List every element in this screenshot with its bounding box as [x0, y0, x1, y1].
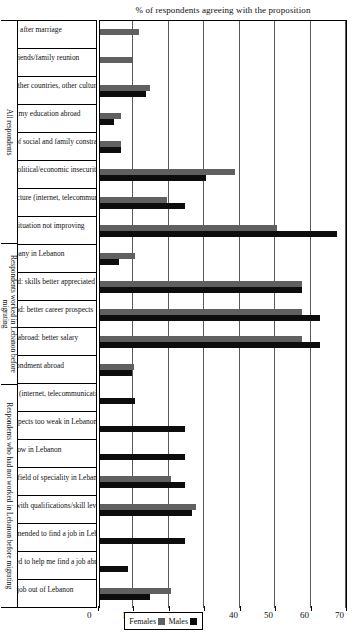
- bar-group: [100, 524, 346, 552]
- category-label-text: Could not be helped or recommended to fi…: [17, 530, 97, 538]
- y-tick-value: 60: [300, 610, 326, 620]
- bar-group: [100, 49, 346, 77]
- category-label: Found a better job abroad: skills better…: [17, 273, 97, 301]
- category-label: Bad quality of infrastructure (internet,…: [17, 384, 97, 412]
- bar-group: [100, 580, 346, 608]
- group-label-text: Respondents who had not worked in Lebano…: [5, 400, 13, 591]
- category-label-text: Wanted to continue my education abroad: [17, 110, 81, 118]
- bar-group: [100, 356, 346, 384]
- category-label: Job offers not compatible with qualifica…: [17, 496, 97, 524]
- legend-swatch-males: [190, 618, 197, 625]
- bar-females: [100, 29, 139, 35]
- category-label: Career advancement prospects too weak in…: [17, 412, 97, 440]
- category-label: Directly found a job out of Lebanon: [17, 580, 97, 608]
- category-label-text: Left Lebanon as a rejection of social an…: [17, 138, 97, 146]
- group-label: Respondents worked in Lebanon before mig…: [1, 244, 17, 384]
- bar-group: [100, 301, 346, 329]
- bar-group: [100, 189, 346, 217]
- category-label-text: Lost job/company in Lebanon: [17, 250, 64, 258]
- category-label: Left Lebanon for fear of political/econo…: [17, 161, 97, 189]
- legend-swatch-females: [158, 618, 165, 625]
- bar-males: [100, 203, 185, 209]
- legend-label-females: Females: [130, 617, 157, 626]
- y-tick-value: 0: [87, 610, 113, 620]
- bar-males: [100, 287, 302, 293]
- category-label: Found a better job abroad: better career…: [17, 301, 97, 329]
- bar-males: [100, 510, 192, 516]
- category-label: Lost job/company in Lebanon: [17, 245, 97, 273]
- bar-males: [100, 315, 320, 321]
- group-label-text: All respondents: [5, 107, 13, 158]
- category-label-text: Found a better job abroad: better career…: [17, 306, 93, 314]
- y-axis-title: % of respondents agreeing with the propo…: [93, 2, 353, 18]
- category-label-text: Career advancement prospects too weak in…: [17, 418, 97, 426]
- bar-chart: % of respondents agreeing with the propo…: [0, 0, 353, 640]
- bar-males: [100, 119, 114, 125]
- category-label: No job opportunities in my field of spec…: [17, 468, 97, 496]
- group-labels: All respondentsRespondents worked in Leb…: [1, 20, 17, 608]
- y-tick-label: 40: [232, 610, 242, 636]
- bar-group: [100, 496, 346, 524]
- legend: Males Females: [124, 612, 203, 630]
- category-label: Bad quality of technical infrastructure …: [17, 189, 97, 217]
- category-label-text: Left Lebanon for fear of political/econo…: [17, 166, 97, 174]
- category-label: Left Lebanon as a rejection of social an…: [17, 133, 97, 161]
- category-label-text: Job offers not compatible with qualifica…: [17, 502, 97, 510]
- category-label: Salaries too low in Lebanon: [17, 440, 97, 468]
- legend-label-males: Males: [168, 617, 188, 626]
- y-tick-label: 0: [90, 610, 100, 636]
- legend-item-females: Females: [130, 614, 166, 628]
- category-label-text: No job opportunities in my field of spec…: [17, 474, 97, 482]
- bar-group: [100, 412, 346, 440]
- bar-males: [100, 175, 206, 181]
- category-label: Left Lebanon after marriage: [17, 21, 97, 49]
- bar-males: [100, 398, 135, 404]
- bar-group: [100, 273, 346, 301]
- bar-males: [100, 91, 146, 97]
- bar-females: [100, 57, 132, 63]
- category-label-text: Bad quality of technical infrastructure …: [17, 194, 97, 202]
- y-tick-label: 60: [303, 610, 313, 636]
- bar-males: [100, 594, 150, 600]
- bar-males: [100, 566, 128, 572]
- bar-group: [100, 328, 346, 356]
- category-label: Could not be helped or recommended to fi…: [17, 524, 97, 552]
- bar-group: [100, 217, 346, 245]
- category-label-text: Left Lebanon for friends/family reunion: [17, 54, 79, 62]
- bar-group: [100, 133, 346, 161]
- category-label-text: Directly found a job out of Lebanon: [17, 586, 73, 594]
- bar-group: [100, 440, 346, 468]
- category-label-text: Left Lebanon to discover other countries…: [17, 82, 97, 90]
- bar-group: [100, 21, 346, 49]
- category-label: Found a better job abroad: better salary: [17, 328, 97, 356]
- category-label-text: Bad quality of infrastructure (internet,…: [17, 390, 97, 398]
- plot-area: [99, 20, 347, 608]
- group-label: All respondents: [1, 20, 17, 244]
- bar-group: [100, 245, 346, 273]
- category-label-text: Found a better job abroad: skills better…: [17, 278, 95, 286]
- bar-group: [100, 552, 346, 580]
- bar-group: [100, 384, 346, 412]
- category-label: Wanted to continue my education abroad: [17, 105, 97, 133]
- y-axis-title-text: % of respondents agreeing with the propo…: [135, 5, 310, 15]
- category-label: Left Lebanon to discover other countries…: [17, 77, 97, 105]
- bar-group: [100, 161, 346, 189]
- bar-males: [100, 538, 185, 544]
- category-label: Company secondment abroad: [17, 356, 97, 384]
- bar-males: [100, 147, 121, 153]
- category-label: Economic/financial situation not improvi…: [17, 217, 97, 245]
- legend-item-males: Males: [168, 614, 197, 628]
- y-tick-label: 70: [338, 610, 348, 636]
- category-label-text: Found a better job abroad: better salary: [17, 334, 78, 342]
- category-label-text: Salaries too low in Lebanon: [17, 446, 61, 454]
- bar-males: [100, 342, 320, 348]
- bar-series-container: [100, 21, 346, 608]
- group-label: Respondents who had not worked in Lebano…: [1, 385, 17, 608]
- group-label-text: Respondents worked in Lebanon before mig…: [1, 244, 17, 383]
- category-labels: Left Lebanon after marriageLeft Lebanon …: [17, 20, 97, 608]
- bar-group: [100, 468, 346, 496]
- category-label: Friend/family member offered to help me …: [17, 552, 97, 580]
- bar-males: [100, 231, 337, 237]
- y-tick-value: 40: [229, 610, 255, 620]
- bar-group: [100, 77, 346, 105]
